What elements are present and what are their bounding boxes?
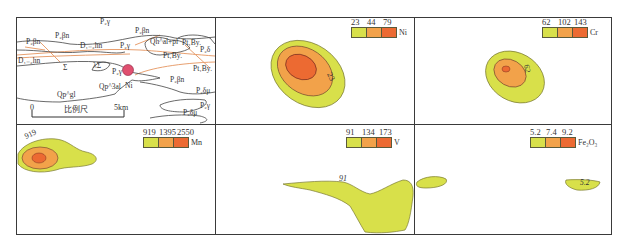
ni-threshold-1: 23 — [351, 17, 367, 27]
fe2o3-threshold-1: 5.2 — [530, 127, 546, 137]
v-swatch-low — [346, 137, 362, 148]
fe2o3-swatch-low — [530, 137, 546, 148]
mn-swatch-high — [173, 137, 189, 148]
mn-swatch-low — [143, 137, 159, 148]
mn-threshold-3: 2550 — [177, 127, 195, 137]
mn-element-label: Mn — [191, 138, 202, 147]
geology-unit-label: P₂δμ — [183, 108, 197, 117]
geology-unit-label: Qp^gl — [57, 90, 76, 99]
geology-unit-label: Pt₁By. — [182, 38, 201, 47]
ni-deposit-marker — [123, 65, 134, 76]
ni-threshold-3: 79 — [383, 17, 399, 27]
ni-element-label: Ni — [399, 28, 407, 37]
geology-unit-label: Qp^3al — [99, 82, 121, 91]
geology-unit-label: P₂γ — [120, 41, 130, 50]
scale-bar-start-label: 0 — [30, 103, 34, 112]
ni-swatch-high — [381, 27, 397, 38]
v-element-label: V — [394, 138, 400, 147]
mn-threshold-2: 1395 — [159, 127, 177, 137]
geology-unit-label: P₂γ — [200, 101, 210, 110]
mn-legend: 919 1395 2550 Mn — [143, 127, 202, 148]
fe2o3-contour-label: 5.2 — [580, 178, 590, 187]
geology-unit-label: P₂δμ — [196, 86, 210, 95]
geology-unit-label: P₂γ — [112, 67, 122, 76]
geology-unit-label: Ni — [125, 81, 133, 90]
ni-swatch-mid — [366, 27, 382, 38]
fe2o3-swatch-high — [560, 137, 576, 148]
geology-unit-label: Σ — [63, 63, 67, 72]
scale-bar-end-label: 5km — [114, 103, 128, 112]
cr-swatch-mid — [557, 27, 573, 38]
geology-unit-label: D₁₋₂hn — [80, 41, 102, 50]
mn-threshold-1: 919 — [143, 127, 159, 137]
geology-unit-label: P₂δ — [200, 45, 210, 54]
scale-bar-title: 比例尺 — [64, 103, 88, 114]
cr-threshold-3: 143 — [574, 17, 590, 27]
fe2o3-threshold-3: 9.2 — [562, 127, 578, 137]
v-swatch-high — [376, 137, 392, 148]
v-threshold-2: 134 — [362, 127, 379, 137]
v-threshold-1: 91 — [346, 127, 362, 137]
anomaly-panel-v: 91 91 134 173 V — [215, 124, 414, 235]
geology-unit-label: P₂γ — [100, 17, 110, 26]
ni-legend: 23 44 79 Ni — [351, 17, 407, 38]
ni-threshold-2: 44 — [367, 17, 383, 27]
geology-unit-label: Qh^al+pl — [150, 37, 178, 46]
geology-unit-label: P₂βn — [135, 26, 149, 35]
anomaly-panel-fe2o3: 5.2 5.2 7.4 9.2 Fe₂O₃ — [414, 124, 612, 235]
geology-map-panel: P₂γP₂βnP₂βnP₂βnD₁₋₂hnP₂γQh^al+plPt₁By.P₂… — [16, 17, 215, 124]
geology-unit-label: λΣ — [93, 61, 101, 70]
anomaly-panel-ni: 23 23 44 79 Ni — [215, 17, 414, 124]
anomaly-panel-cr: 62 62 102 143 Cr — [414, 17, 612, 124]
ni-swatch-low — [351, 27, 367, 38]
mn-contour-label: 919 — [23, 128, 38, 141]
geology-unit-label: Pt₁By. — [163, 51, 182, 60]
fe2o3-threshold-2: 7.4 — [546, 127, 562, 137]
geology-unit-label: P₂βn — [55, 31, 69, 40]
anomaly-panel-mn: 919 919 1395 2550 Mn — [16, 124, 215, 235]
v-threshold-3: 173 — [379, 127, 396, 137]
geology-unit-label: P₂βn — [170, 75, 184, 84]
cr-legend: 62 102 143 Cr — [542, 17, 598, 38]
v-legend: 91 134 173 V — [346, 127, 400, 148]
cr-swatch-high — [572, 27, 588, 38]
geology-unit-label: Pt₁By. — [193, 64, 212, 73]
cr-swatch-low — [542, 27, 558, 38]
fe2o3-element-label: Fe₂O₃ — [578, 138, 597, 147]
geology-unit-label: P₂βn — [26, 37, 40, 46]
cr-threshold-1: 62 — [542, 17, 558, 27]
v-contour-label: 91 — [339, 174, 347, 183]
cr-threshold-2: 102 — [558, 17, 574, 27]
fe2o3-legend: 5.2 7.4 9.2 Fe₂O₃ — [530, 127, 597, 148]
fe2o3-swatch-mid — [545, 137, 561, 148]
geology-unit-label: D₁₋₂hn — [18, 56, 40, 65]
cr-element-label: Cr — [590, 28, 598, 37]
mn-swatch-mid — [158, 137, 174, 148]
v-swatch-mid — [361, 137, 377, 148]
cr-contour-label: 62 — [522, 64, 532, 73]
